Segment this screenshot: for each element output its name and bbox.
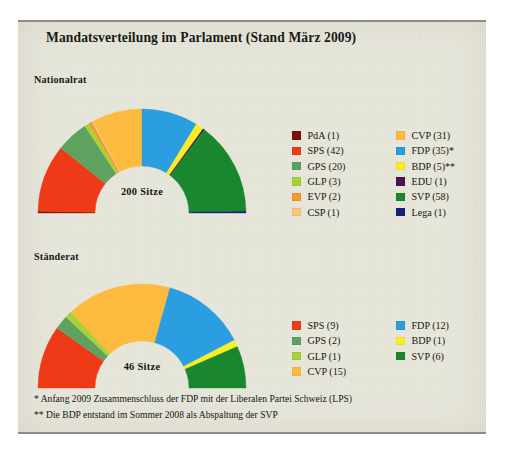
legend-label: GLP (3) xyxy=(308,176,341,187)
legend-label: SPS (9) xyxy=(308,320,339,331)
legend-swatch-evp-icon xyxy=(292,193,301,202)
legend-item: SVP (58) xyxy=(396,189,455,204)
legend-label: SVP (6) xyxy=(412,351,444,362)
legend-item: CVP (31) xyxy=(396,128,455,143)
legend-swatch-cvp-icon xyxy=(396,131,405,140)
legend-swatch-pda-icon xyxy=(292,131,301,140)
legend-label: SPS (42) xyxy=(308,145,344,156)
legend-label: GLP (1) xyxy=(308,351,341,362)
top-rule xyxy=(18,20,486,22)
legend-label: CSP (1) xyxy=(308,207,340,218)
legend-swatch-fdp-icon xyxy=(396,147,405,156)
legend-item: CVP (15) xyxy=(292,364,396,379)
chamber-label-nationalrat: Nationalrat xyxy=(34,74,87,85)
staenderat-segments xyxy=(38,284,246,388)
legend-label: BDP (5)** xyxy=(412,161,456,172)
legend-label: EVP (2) xyxy=(308,191,341,202)
legend-item: FDP (12) xyxy=(396,318,449,333)
legend-swatch-glp-icon xyxy=(292,177,301,186)
legend-swatch-gps-icon xyxy=(292,162,301,171)
legend-item: GPS (2) xyxy=(292,333,396,348)
footnote-fdp-lps: * Anfang 2009 Zusammenschluss der FDP mi… xyxy=(34,391,352,407)
nationalrat-segments xyxy=(38,109,246,213)
nationalrat-semicircle-chart: 200 Sitze xyxy=(34,103,250,215)
legend-label: GPS (2) xyxy=(308,335,341,346)
legend-label: BDP (1) xyxy=(412,335,446,346)
chamber-label-staenderat: Ständerat xyxy=(34,251,79,262)
legend-item: BDP (1) xyxy=(396,333,449,348)
legend-swatch-bdp-icon xyxy=(396,162,405,171)
legend-swatch-svp-icon xyxy=(396,193,405,202)
legend-column-right: FDP (12)BDP (1)SVP (6) xyxy=(396,318,449,379)
scan-page: Mandatsverteilung im Parlament (Stand Mä… xyxy=(0,0,520,457)
legend-item: SPS (42) xyxy=(292,143,396,158)
legend-label: FDP (35)* xyxy=(412,145,455,156)
staenderat-svg xyxy=(34,278,250,390)
legend-column-left: SPS (9)GPS (2)GLP (1)CVP (15) xyxy=(292,318,396,379)
page-title: Mandatsverteilung im Parlament (Stand Mä… xyxy=(46,30,356,46)
footnote-bdp-svp: ** Die BDP entstand im Sommer 2008 als A… xyxy=(34,407,352,423)
legend-label: GPS (20) xyxy=(308,161,346,172)
legend-swatch-fdp-icon xyxy=(396,321,405,330)
legend-label: EDU (1) xyxy=(412,176,447,187)
legend-swatch-lega-icon xyxy=(396,208,405,217)
legend-swatch-svp-icon xyxy=(396,352,405,361)
legend-swatch-sps-icon xyxy=(292,147,301,156)
legend-label: SVP (58) xyxy=(412,191,449,202)
legend-item: PdA (1) xyxy=(292,128,396,143)
legend-item: FDP (35)* xyxy=(396,143,455,158)
bottom-rule xyxy=(18,432,486,434)
legend-label: PdA (1) xyxy=(308,130,340,141)
nationalrat-legend: PdA (1)SPS (42)GPS (20)GLP (3)EVP (2)CSP… xyxy=(292,128,455,220)
legend-swatch-gps-icon xyxy=(292,337,301,346)
legend-item: GLP (1) xyxy=(292,349,396,364)
legend-item: GLP (3) xyxy=(292,174,396,189)
legend-item: EDU (1) xyxy=(396,174,455,189)
legend-swatch-csp-icon xyxy=(292,208,301,217)
legend-column-right: CVP (31)FDP (35)*BDP (5)**EDU (1)SVP (58… xyxy=(396,128,455,220)
legend-label: Lega (1) xyxy=(412,207,446,218)
legend-label: CVP (31) xyxy=(412,130,451,141)
nationalrat-seats-total: 200 Sitze xyxy=(34,186,250,197)
legend-column-left: PdA (1)SPS (42)GPS (20)GLP (3)EVP (2)CSP… xyxy=(292,128,396,220)
legend-swatch-glp-icon xyxy=(292,352,301,361)
legend-item: EVP (2) xyxy=(292,189,396,204)
legend-item: SVP (6) xyxy=(396,349,449,364)
legend-swatch-bdp-icon xyxy=(396,337,405,346)
nationalrat-svg xyxy=(34,103,250,215)
legend-item: SPS (9) xyxy=(292,318,396,333)
legend-swatch-sps-icon xyxy=(292,321,301,330)
legend-item: Lega (1) xyxy=(396,204,455,219)
staenderat-legend: SPS (9)GPS (2)GLP (1)CVP (15) FDP (12)BD… xyxy=(292,318,449,379)
legend-label: FDP (12) xyxy=(412,320,449,331)
legend-item: CSP (1) xyxy=(292,204,396,219)
legend-swatch-cvp-icon xyxy=(292,367,301,376)
legend-item: BDP (5)** xyxy=(396,159,455,174)
staenderat-semicircle-chart: 46 Sitze xyxy=(34,278,250,390)
legend-label: CVP (15) xyxy=(308,366,347,377)
legend-item: GPS (20) xyxy=(292,159,396,174)
staenderat-seats-total: 46 Sitze xyxy=(34,361,250,372)
footnotes: * Anfang 2009 Zusammenschluss der FDP mi… xyxy=(34,391,352,422)
legend-swatch-edu-icon xyxy=(396,177,405,186)
